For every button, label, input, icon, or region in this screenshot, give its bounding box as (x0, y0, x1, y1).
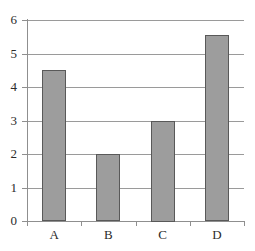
y-axis-tick-label: 6 (3, 13, 17, 26)
x-axis-tick-label: C (148, 227, 178, 243)
y-axis-tick-mark (22, 87, 27, 88)
y-axis-tick-mark (22, 188, 27, 189)
x-axis-tick-mark (190, 221, 191, 226)
y-axis-tick-label: 5 (3, 47, 17, 60)
x-axis-tick-mark (136, 221, 137, 226)
y-axis-tick-mark (22, 20, 27, 21)
gridline (27, 20, 244, 21)
x-axis-tick-label: A (39, 227, 69, 243)
y-axis-tick-label: 1 (3, 181, 17, 194)
y-axis-tick-label: 4 (3, 80, 17, 93)
bar-chart-figure: 0123456 ABCD (0, 0, 255, 251)
x-axis-tick-label: D (202, 227, 232, 243)
bar-d (205, 35, 229, 221)
y-axis-tick-label: 2 (3, 147, 17, 160)
x-axis-tick-mark (27, 221, 28, 226)
y-axis-tick-label: 3 (3, 114, 17, 127)
x-axis-tick-label: B (93, 227, 123, 243)
y-axis-tick-label: 0 (3, 214, 17, 227)
y-axis-line (27, 19, 28, 222)
x-axis-tick-mark (81, 221, 82, 226)
y-axis-tick-mark (22, 154, 27, 155)
x-axis-tick-mark (244, 221, 245, 226)
bar-c (151, 121, 175, 222)
y-axis-tick-mark (22, 121, 27, 122)
bar-a (42, 70, 66, 221)
y-axis-tick-mark (22, 54, 27, 55)
bar-b (96, 154, 120, 221)
